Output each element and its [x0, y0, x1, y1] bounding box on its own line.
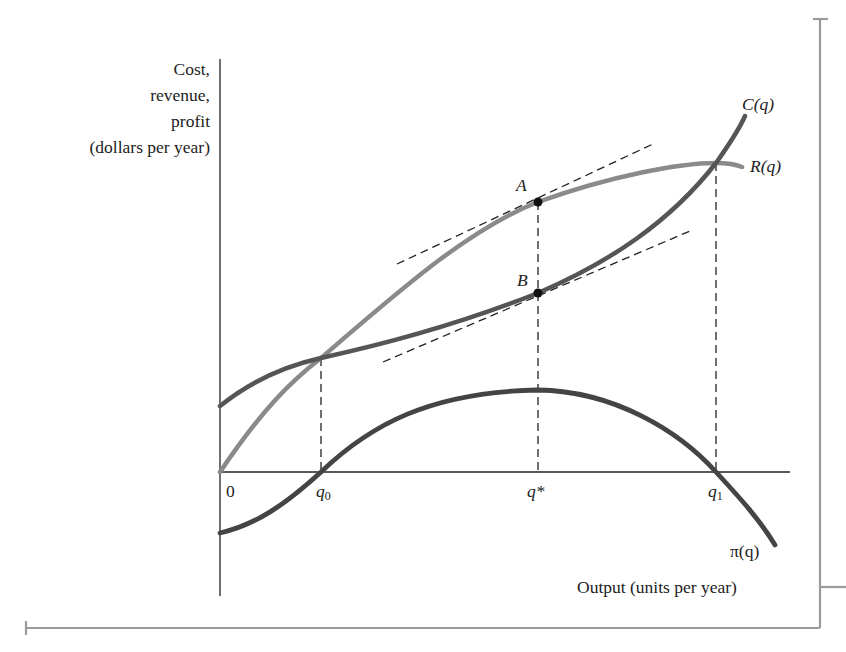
- point-a-marker: [534, 198, 543, 207]
- y-axis-label-line-1: Cost,: [90, 56, 211, 82]
- revenue-curve-label: R(q): [750, 156, 781, 177]
- point-a-label: A: [516, 175, 527, 196]
- tick-origin: 0: [226, 481, 235, 502]
- tick-q0: q0: [316, 481, 331, 504]
- profit-curve: [220, 390, 775, 545]
- tick-q1-sub: 1: [717, 489, 723, 503]
- tick-q0-sub: 0: [325, 489, 331, 503]
- axes: [220, 59, 790, 596]
- tick-q1-base: q: [708, 481, 717, 501]
- cost-curve-label: C(q): [742, 94, 774, 115]
- y-axis-label: Cost, revenue, profit (dollars per year): [90, 56, 211, 160]
- tangent-line-a: [397, 144, 653, 264]
- tick-qstar: q*: [527, 481, 545, 502]
- x-axis-label: Output (units per year): [577, 577, 737, 598]
- y-axis-label-line-4: (dollars per year): [90, 134, 211, 160]
- cost-curve: [220, 116, 745, 406]
- y-axis-label-line-2: revenue,: [90, 82, 211, 108]
- tick-q0-base: q: [316, 481, 325, 501]
- profit-curve-label: π(q): [730, 541, 759, 562]
- y-axis-label-line-3: profit: [90, 108, 211, 134]
- point-b-marker: [534, 289, 543, 298]
- tick-q1: q1: [708, 481, 723, 504]
- point-b-label: B: [517, 270, 528, 291]
